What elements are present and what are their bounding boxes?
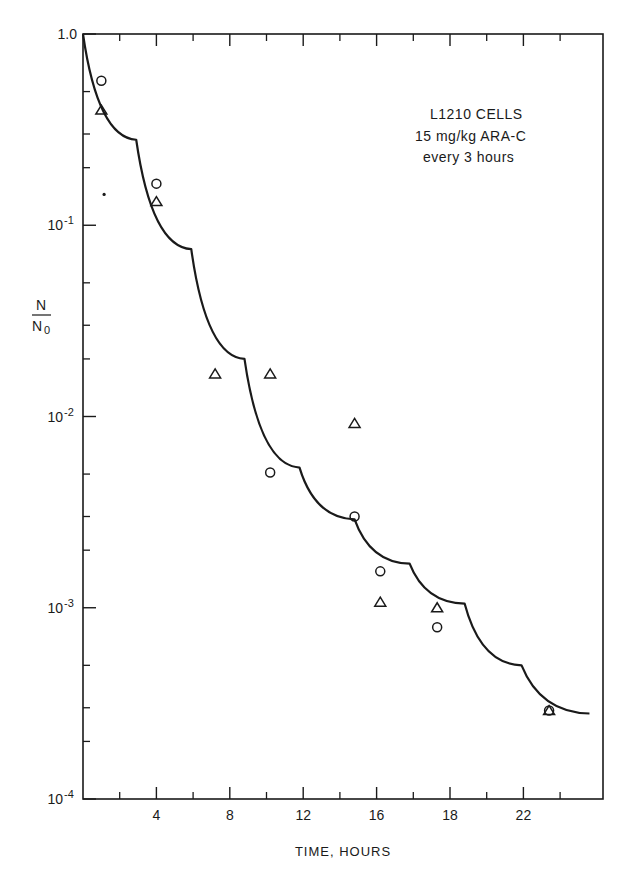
triangle-marker <box>375 597 386 606</box>
plot-area-border <box>83 34 603 799</box>
x-tick-label: 16 <box>369 807 385 823</box>
stray-dot <box>103 193 106 196</box>
y-axis-ticks <box>83 34 96 799</box>
annotation-line-3: every 3 hours <box>423 149 514 165</box>
triangle-marker <box>210 369 221 378</box>
y-axis-title-denominator: N <box>32 318 42 334</box>
x-tick-label: 4 <box>153 807 161 823</box>
y-tick-label: 10 <box>47 217 63 233</box>
x-tick-label: 12 <box>295 807 311 823</box>
x-tick-label: 18 <box>442 807 458 823</box>
y-tick-label: 10 <box>47 791 63 807</box>
data-markers <box>96 76 555 715</box>
y-axis-title: N N 0 <box>32 297 51 336</box>
y-axis-labels: 1.010-110-210-310-4 <box>47 26 77 807</box>
circle-marker <box>433 623 442 632</box>
chart: 1.010-110-210-310-4 4812161822 L1210 CEL… <box>0 0 630 886</box>
y-axis-title-numerator: N <box>36 297 46 313</box>
annotation-box: L1210 CELLS 15 mg/kg ARA-C every 3 hours <box>415 106 526 165</box>
circle-marker <box>152 179 161 188</box>
x-axis-labels: 4812161822 <box>153 807 532 823</box>
triangle-marker <box>432 603 443 612</box>
plot-frame <box>83 34 603 799</box>
x-tick-label: 22 <box>516 807 532 823</box>
annotation-line-1: L1210 CELLS <box>430 106 523 122</box>
triangle-marker <box>151 197 162 206</box>
annotation-line-2: 15 mg/kg ARA-C <box>415 128 526 144</box>
y-tick-exponent: -4 <box>64 788 74 800</box>
y-tick-exponent: -1 <box>64 214 74 226</box>
y-tick-exponent: -2 <box>64 406 74 418</box>
circle-marker <box>97 76 106 85</box>
circle-marker <box>376 567 385 576</box>
triangle-marker <box>349 418 360 427</box>
y-tick-label: 10 <box>47 409 63 425</box>
y-tick-exponent: -3 <box>64 597 74 609</box>
y-tick-label: 1.0 <box>58 26 78 42</box>
circle-marker <box>266 468 275 477</box>
x-axis-title: TIME, HOURS <box>295 844 391 859</box>
y-tick-label: 10 <box>47 600 63 616</box>
y-axis-title-subscript: 0 <box>44 324 50 336</box>
x-tick-label: 8 <box>226 807 234 823</box>
triangle-marker <box>265 369 276 378</box>
